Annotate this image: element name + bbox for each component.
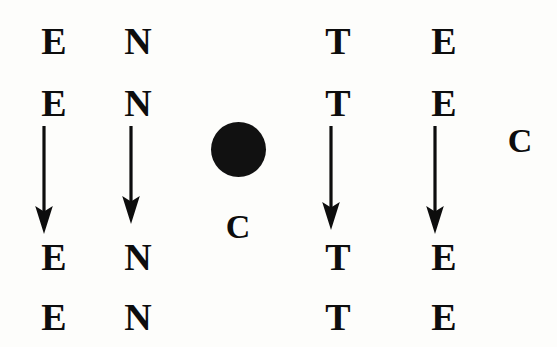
letter-col4-row1: E [418, 22, 470, 60]
letter-col1-row3: E [28, 238, 80, 276]
letter-col4-row4: E [418, 298, 470, 336]
down-arrow-col4 [417, 126, 453, 236]
down-arrow-col3 [313, 126, 349, 232]
right-letter-c: C [498, 124, 542, 158]
down-arrow-col2 [113, 126, 149, 226]
letter-col3-row2: T [312, 84, 364, 122]
letter-col1-row2: E [28, 84, 80, 122]
letter-col3-row4: T [312, 298, 364, 336]
letter-col2-row4: N [112, 298, 164, 336]
letter-col1-row1: E [28, 22, 80, 60]
letter-col2-row2: N [112, 84, 164, 122]
letter-col3-row1: T [312, 22, 364, 60]
down-arrow-col1 [26, 126, 62, 236]
center-letter-c: C [216, 210, 260, 244]
letter-col2-row1: N [112, 22, 164, 60]
letter-col4-row2: E [418, 84, 470, 122]
filled-circle-icon [211, 122, 266, 177]
letter-col3-row3: T [312, 238, 364, 276]
figure-canvas: E E E E N N N N C T T T T E E [0, 0, 557, 347]
letter-col1-row4: E [28, 298, 80, 336]
letter-col2-row3: N [112, 238, 164, 276]
letter-col4-row3: E [418, 238, 470, 276]
